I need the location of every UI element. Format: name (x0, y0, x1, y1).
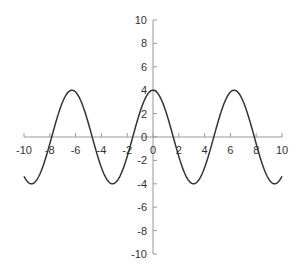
y-tick-label: -4 (137, 178, 147, 190)
x-tick-label: -6 (71, 144, 81, 156)
y-tick-label: -6 (137, 201, 147, 213)
axes: -10-8-6-4-202468101086420-2-4-6-8-10 (16, 14, 288, 260)
x-tick-label: -4 (97, 144, 107, 156)
x-tick-label: 4 (202, 144, 208, 156)
y-tick-label: 2 (141, 108, 147, 120)
y-tick-label: 4 (141, 84, 147, 96)
x-tick-label: -10 (16, 144, 32, 156)
y-tick-label: 6 (141, 61, 147, 73)
x-tick-label: 6 (227, 144, 233, 156)
x-tick-label: 0 (150, 144, 156, 156)
x-tick-label: 10 (276, 144, 288, 156)
y-tick-label: -2 (137, 154, 147, 166)
y-tick-label: -8 (137, 225, 147, 237)
y-tick-label: 0 (141, 131, 147, 143)
y-tick-label: 10 (135, 14, 147, 26)
y-tick-label: -10 (131, 248, 147, 260)
y-tick-label: 8 (141, 37, 147, 49)
line-chart: -10-8-6-4-202468101086420-2-4-6-8-10 (0, 0, 301, 278)
